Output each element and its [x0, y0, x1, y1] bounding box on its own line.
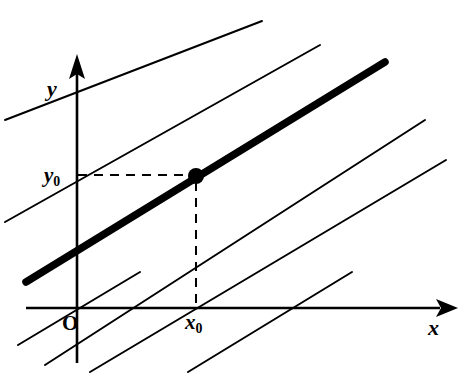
x0-subscript: 0 — [196, 321, 203, 336]
y0-base: y — [44, 163, 53, 187]
y-axis-label: y — [47, 78, 57, 100]
x0-tick-label: x0 — [185, 312, 202, 336]
marked-point-dot — [188, 168, 204, 184]
parallel-line-7 — [188, 272, 352, 372]
axes-group — [26, 54, 458, 363]
parallel-line-5 — [90, 160, 446, 372]
x-axis-label: x — [428, 317, 439, 339]
origin-label: O — [62, 313, 78, 334]
bold-line — [26, 62, 385, 282]
y0-subscript: 0 — [53, 174, 60, 189]
x0-base: x — [185, 310, 196, 334]
figure-container: y x y0 x0 O — [0, 0, 459, 377]
parallel-line-1 — [5, 21, 262, 120]
y0-tick-label: y0 — [44, 165, 60, 189]
